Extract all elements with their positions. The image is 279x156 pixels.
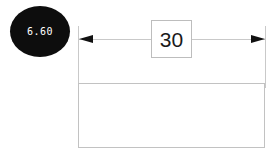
callout-badge[interactable]: 6.60 bbox=[10, 6, 70, 57]
part-outline-rectangle[interactable] bbox=[78, 83, 265, 148]
callout-badge-value: 6.60 bbox=[27, 27, 53, 37]
drawing-canvas[interactable]: 6.60 30 bbox=[0, 0, 279, 156]
arrow-left-icon bbox=[79, 35, 93, 43]
right-extension-line bbox=[265, 26, 266, 88]
dimension-value-box[interactable]: 30 bbox=[151, 20, 192, 58]
dimension-value: 30 bbox=[160, 29, 183, 50]
arrow-right-icon bbox=[251, 35, 265, 43]
